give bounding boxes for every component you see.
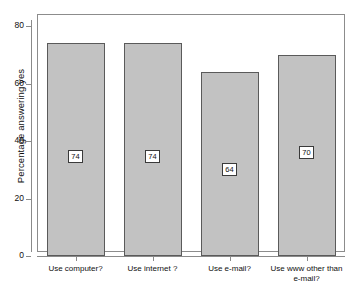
x-axis-line (37, 256, 345, 257)
y-tick-mark (26, 141, 31, 142)
bar-value-label: 74 (68, 150, 83, 163)
y-tick-mark (26, 84, 31, 85)
y-tick-label: 20 (2, 193, 24, 203)
bar-value-label: 74 (145, 150, 160, 163)
x-category-label: Use www other than e-mail? (257, 264, 357, 284)
y-tick-mark (26, 199, 31, 200)
y-tick-mark (26, 26, 31, 27)
bar-value-label: 64 (222, 163, 237, 176)
x-tick-mark (230, 256, 231, 261)
x-tick-mark (307, 256, 308, 261)
bar-value-label: 70 (299, 146, 314, 159)
y-tick-label: 0 (2, 250, 24, 260)
y-tick-label: 60 (2, 78, 24, 88)
y-tick-mark (26, 256, 31, 257)
x-tick-mark (76, 256, 77, 261)
bar-chart: Percentage answering yes 020406080 74746… (0, 0, 359, 296)
x-tick-mark (153, 256, 154, 261)
y-axis-line (31, 20, 32, 252)
y-tick-label: 80 (2, 20, 24, 30)
y-axis-title: Percentage answering yes (14, 0, 28, 252)
y-tick-label: 40 (2, 135, 24, 145)
